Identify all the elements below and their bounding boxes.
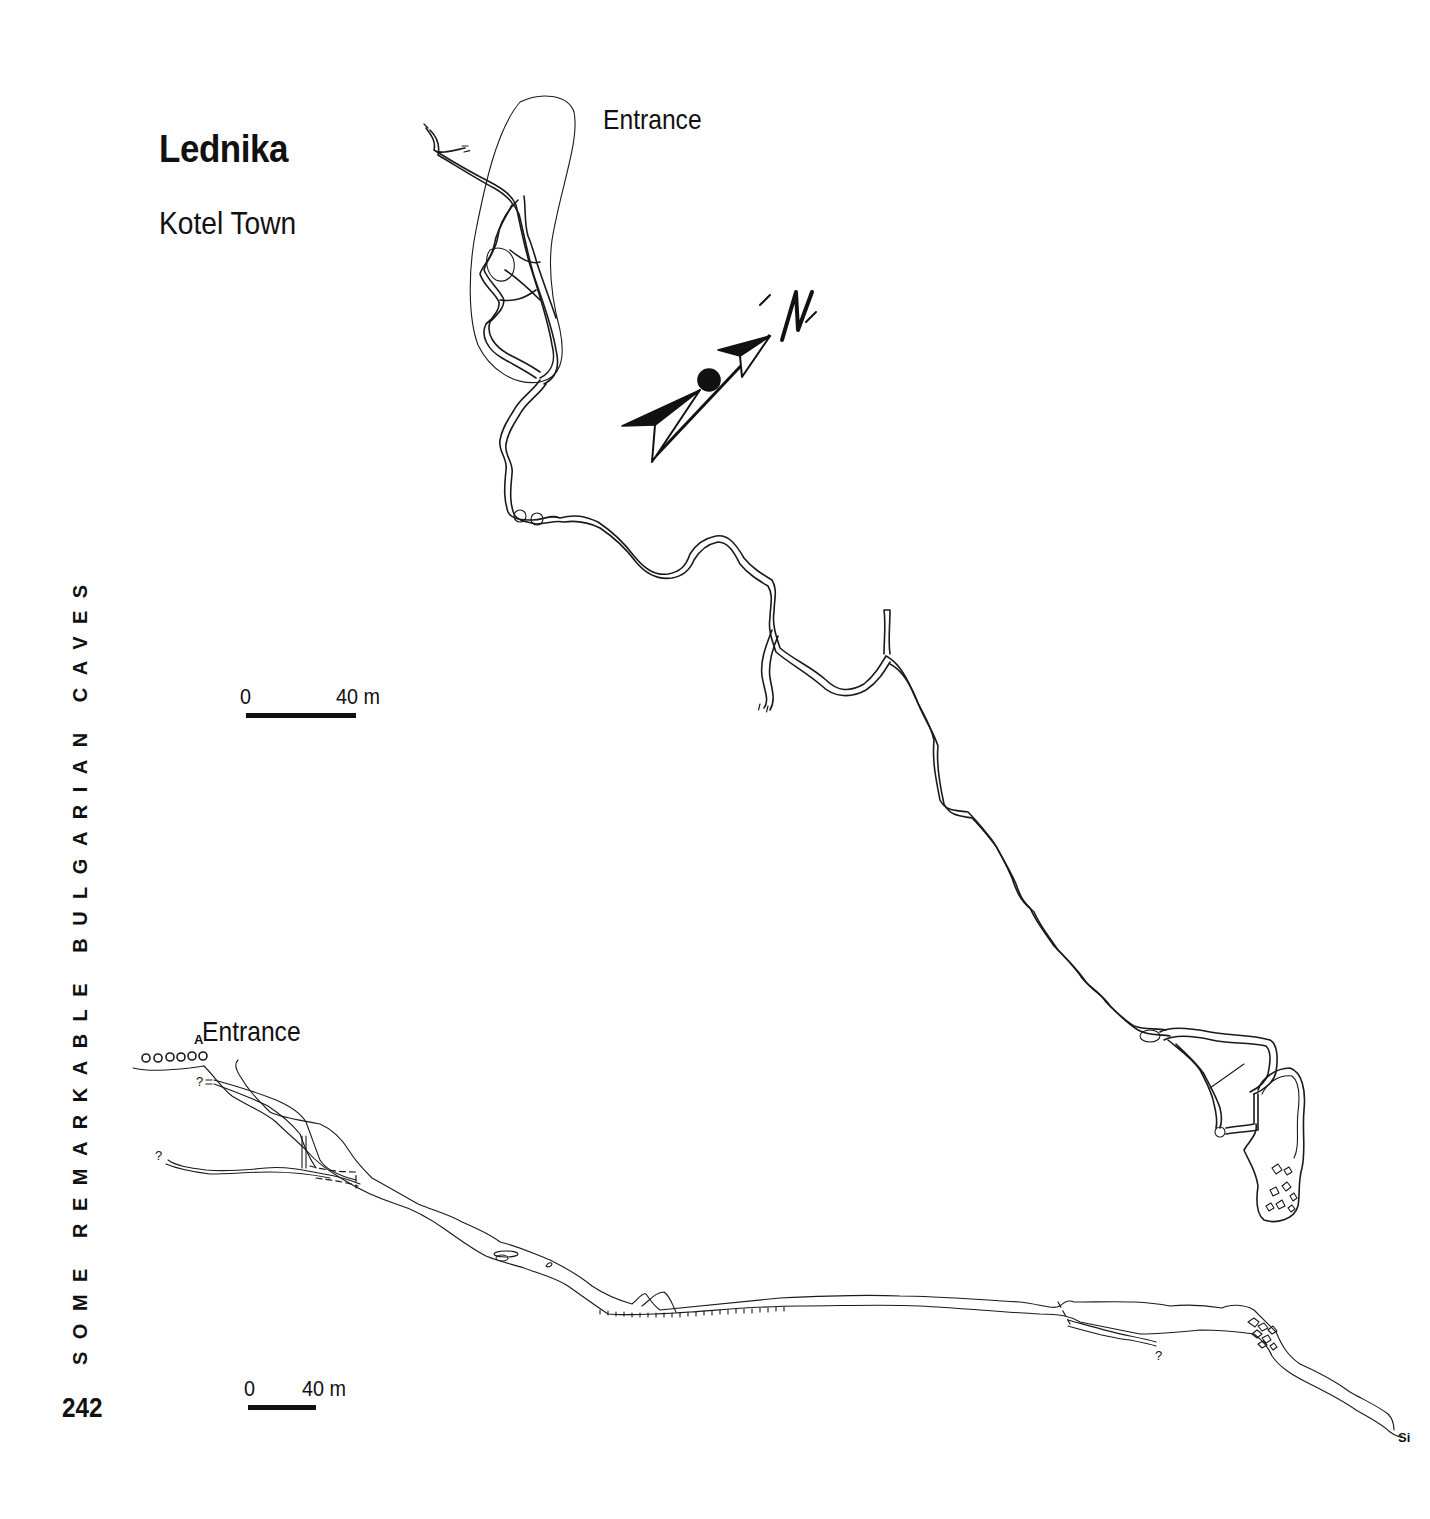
profile-upper-branch-a-dashed (206, 1080, 214, 1084)
plan-view (424, 96, 1304, 1221)
plan-breakdown-blocks (1266, 1164, 1297, 1212)
north-letter-n (782, 292, 812, 340)
profile-feature-pocket-3 (546, 1263, 552, 1267)
plan-main-passage-upper-b (506, 384, 890, 696)
profile-right-branch-dashed (1058, 1302, 1070, 1324)
cave-survey-drawing (0, 0, 1430, 1519)
plan-end-drop-passage (1168, 1040, 1222, 1128)
surface-line (133, 1066, 204, 1070)
plan-end-connector (1226, 1094, 1258, 1134)
plan-end-small-chamber (1140, 1030, 1160, 1042)
plan-passage-entrance-b (430, 130, 558, 384)
profile-floor-main (204, 1066, 1402, 1437)
plan-main-passage-long-a (886, 656, 1166, 1030)
profile-view (133, 1052, 1402, 1437)
plan-main-passage-long-b (890, 664, 1170, 1036)
plan-dead-end-branch (884, 610, 890, 654)
plan-passage-branch-d (484, 200, 540, 372)
compass-center-dot (698, 369, 720, 391)
profile-feature-pocket-2 (496, 1255, 508, 1261)
plan-side-passage-lower (762, 630, 778, 710)
plan-end-spur (1210, 1064, 1244, 1088)
plan-main-passage-upper (500, 380, 886, 690)
profile-upper-branch-a2 (214, 1084, 316, 1168)
profile-boulder-choke (1248, 1318, 1277, 1350)
north-arrow-icon (622, 292, 816, 462)
plan-end-loop-outer (1160, 1028, 1277, 1094)
plan-side-passage-end (758, 704, 768, 714)
plan-end-chamber-inner (1262, 1076, 1299, 1158)
profile-ceiling-upper (236, 1060, 1394, 1430)
plan-inner-chamber (487, 248, 515, 281)
profile-right-branch (1068, 1320, 1156, 1346)
